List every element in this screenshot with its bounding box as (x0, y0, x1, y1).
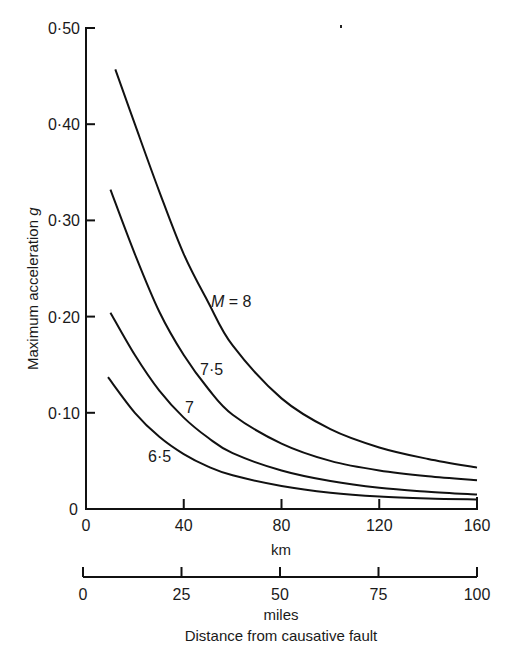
y-tick-label: 0·30 (48, 212, 80, 229)
y-axis-label: Maximum acceleration g (24, 207, 41, 370)
x-axis-title: Distance from causative fault (185, 627, 378, 644)
label-m7: 7 (185, 399, 194, 416)
label-m6-5: 6·5 (148, 448, 171, 465)
miles-tick-label: 50 (271, 586, 289, 603)
y-tick-label: 0·40 (48, 116, 80, 133)
curves (108, 69, 477, 509)
y-ticks: 00·100·200·300·400·50 (48, 20, 95, 518)
label-m7-5: 7·5 (200, 361, 223, 378)
x-tick-label: 40 (175, 517, 193, 534)
curve-m7 (110, 313, 477, 495)
x-tick-label: 160 (464, 517, 491, 534)
miles-tick-label: 25 (173, 586, 191, 603)
y-tick-label: 0·50 (48, 20, 80, 37)
stray-mark (340, 25, 342, 28)
x-ticks-km: 04080120160 (82, 499, 491, 534)
axes (83, 27, 478, 577)
miles-tick-label: 0 (79, 586, 88, 603)
acceleration-chart: 00·100·200·300·400·50 04080120160 025507… (0, 0, 507, 656)
miles-tick-label: 100 (464, 586, 491, 603)
miles-label: miles (263, 606, 298, 623)
x-tick-label: 120 (366, 517, 393, 534)
km-label: km (271, 541, 291, 558)
miles-tick-label: 75 (370, 586, 388, 603)
y-tick-label: 0 (69, 501, 78, 518)
x-tick-label: 80 (273, 517, 291, 534)
curve-m8 (115, 69, 477, 467)
curve-m75 (110, 190, 477, 481)
x-tick-label: 0 (82, 517, 91, 534)
y-tick-label: 0·20 (48, 309, 80, 326)
y-tick-label: 0·10 (48, 405, 80, 422)
x-ticks-miles: 0255075100 (79, 567, 491, 603)
label-m8: M = 8 (211, 293, 252, 310)
